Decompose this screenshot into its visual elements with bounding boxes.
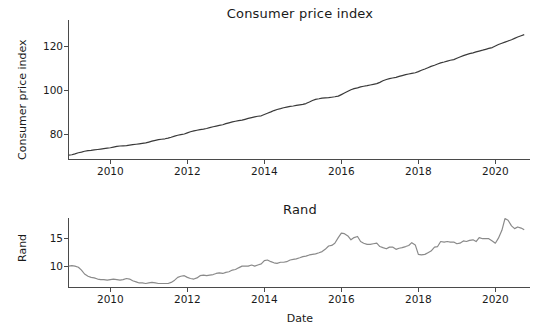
x-tick-label: 2016	[328, 293, 355, 305]
y-tick-mark	[64, 90, 68, 91]
x-tick-mark	[264, 160, 265, 164]
x-tick-label: 2020	[482, 165, 509, 177]
y-tick-label: 15	[50, 232, 63, 244]
x-tick-label: 2018	[405, 165, 432, 177]
x-tick-label: 2010	[97, 165, 124, 177]
x-axis-label: Date	[60, 312, 540, 325]
y-tick-mark	[64, 266, 68, 267]
x-tick-mark	[110, 288, 111, 292]
x-tick-label: 2010	[97, 293, 124, 305]
figure-root: Consumer price index Consumer price inde…	[0, 0, 550, 335]
chart-title-cpi: Consumer price index	[60, 6, 540, 21]
x-tick-mark	[495, 288, 496, 292]
x-tick-mark	[341, 160, 342, 164]
x-tick-mark	[264, 288, 265, 292]
x-tick-mark	[187, 160, 188, 164]
x-tick-label: 2014	[251, 293, 278, 305]
x-tick-label: 2018	[405, 293, 432, 305]
data-line	[69, 219, 524, 284]
x-tick-label: 2016	[328, 165, 355, 177]
series-line-cpi	[68, 20, 530, 160]
x-tick-label: 2012	[174, 293, 201, 305]
y-tick-mark	[64, 238, 68, 239]
x-tick-mark	[341, 288, 342, 292]
y-tick-mark	[64, 134, 68, 135]
plot-panel-rand: 1015201020122014201620182020	[68, 218, 530, 288]
data-line	[69, 35, 524, 156]
y-tick-label: 10	[50, 260, 63, 272]
x-tick-label: 2014	[251, 165, 278, 177]
chart-title-rand: Rand	[60, 202, 540, 217]
y-axis-label-rand: Rand	[16, 234, 29, 262]
x-tick-mark	[110, 160, 111, 164]
y-tick-label: 100	[43, 84, 63, 96]
y-tick-label: 80	[50, 128, 63, 140]
y-tick-mark	[64, 46, 68, 47]
x-tick-mark	[418, 160, 419, 164]
x-tick-mark	[495, 160, 496, 164]
plot-panel-cpi: 80100120201020122014201620182020	[68, 20, 530, 160]
y-tick-label: 120	[43, 40, 63, 52]
x-tick-mark	[418, 288, 419, 292]
x-tick-label: 2020	[482, 293, 509, 305]
x-tick-label: 2012	[174, 165, 201, 177]
series-line-rand	[68, 218, 530, 288]
x-tick-mark	[187, 288, 188, 292]
y-axis-label-cpi: Consumer price index	[16, 39, 29, 160]
